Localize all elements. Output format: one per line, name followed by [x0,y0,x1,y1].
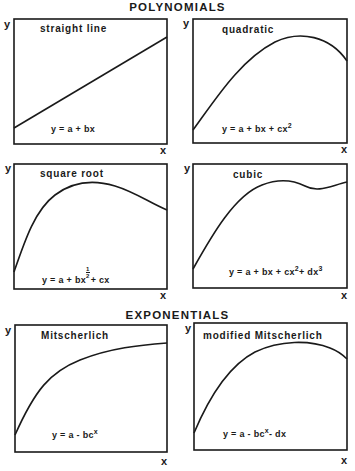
y-axis-label: y [5,163,11,174]
y-axis-label: y [184,163,190,174]
x-axis-label: x [341,455,347,466]
equation-straight-line: y = a + bx [51,123,95,135]
x-axis-label: x [160,290,166,301]
equation-pre: y = a + bx [42,275,86,285]
curve-square-root [14,182,167,272]
x-axis-label: x [160,145,166,156]
panel-title-quadratic: quadratic [222,24,274,36]
panel-title-straight-line: straight line [40,23,107,35]
x-axis-label: x [161,456,167,467]
curve-modified-mitscherlich [194,342,347,433]
panel-title-square-root: square root [40,168,104,180]
equation-base: y = a - bc [52,430,94,440]
equation-quadratic: y = a + bx + cx2 [222,123,292,135]
equation-pre: y = a + bx + cx [229,267,295,277]
x-axis-label: x [341,144,347,155]
equation-modified-mitscherlich: y = a - bcx- dx [223,428,286,440]
y-axis-label: y [185,323,191,334]
panel-title-mitscherlich: Mitscherlich [41,330,109,342]
equation-mid: + dx [299,267,318,277]
fraction-exponent: 12 [86,266,90,279]
exponent: 3 [318,265,322,272]
curve-straight-line [14,37,167,128]
curve-mitscherlich [15,343,167,435]
equation-mitscherlich: y = a - bcx [52,429,98,441]
curve-figures [0,0,355,471]
equation-post: + cx [91,275,110,285]
equation-square-root: y = a + bx12+ cx [42,266,110,286]
y-axis-label: y [183,18,189,29]
curve-cubic [193,181,347,269]
y-axis-label: y [5,325,11,336]
curve-quadratic [193,36,347,130]
equation-base: y = a + bx + cx [222,124,288,134]
equation-cubic: y = a + bx + cx2+ dx3 [229,266,323,278]
exponent: x [94,428,98,435]
exponent: 2 [288,122,292,129]
fraction-denominator: 2 [86,273,90,279]
fraction-numerator: 1 [86,266,90,273]
equation-base: y = a - bc [223,429,265,439]
x-axis-label: x [341,290,347,301]
panel-title-modified-mitscherlich: modified Mitscherlich [203,330,323,342]
y-axis-label: y [4,19,10,30]
panel-title-cubic: cubic [233,169,263,181]
equation-post: - dx [269,429,286,439]
